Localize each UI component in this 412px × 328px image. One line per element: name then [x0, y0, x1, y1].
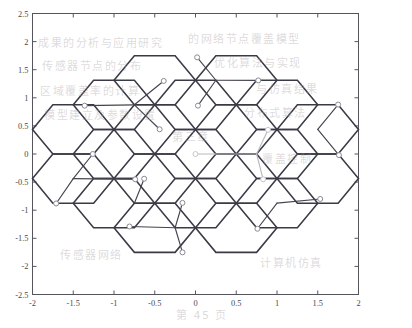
node-marker [195, 103, 200, 108]
node-marker [336, 102, 341, 107]
x-tick-label: -0.5 [148, 299, 161, 308]
star-arm [318, 129, 339, 155]
node-marker [54, 201, 59, 206]
node-marker [336, 153, 341, 158]
star-arm [56, 179, 73, 204]
node-marker [142, 176, 147, 181]
node-marker [90, 152, 95, 157]
node-marker [82, 103, 87, 108]
node-marker [318, 196, 323, 201]
y-tick-label: 1.5 [18, 66, 28, 75]
y-tick-label: 2 [24, 38, 28, 47]
node-marker [127, 224, 132, 229]
y-tick-label: -1 [22, 206, 29, 215]
node-marker [161, 78, 166, 83]
hexagonal-lattice-plot: -2-1.5-1-0.500.511.52 -2.5-2-1.5-1-0.500… [0, 0, 412, 328]
y-tick-label: 0.5 [18, 122, 28, 131]
star-arm [129, 227, 175, 228]
y-axis-tick-labels: -2.5-2-1.5-1-0.500.511.522.5 [15, 10, 28, 300]
node-marker [133, 177, 138, 182]
star-arm [318, 105, 338, 130]
node-marker [157, 127, 162, 132]
y-tick-label: -2 [22, 262, 29, 271]
x-tick-label: 1.5 [313, 299, 323, 308]
x-axis-tick-labels: -2-1.5-1-0.500.511.52 [29, 299, 361, 308]
y-tick-label: 1 [24, 94, 28, 103]
node-marker [255, 226, 260, 231]
x-tick-label: 0 [193, 299, 197, 308]
y-tick-label: -2.5 [15, 291, 28, 300]
star-arm [73, 179, 135, 180]
x-tick-label: -1.5 [67, 299, 80, 308]
figure-container: 成果的分析与应用研究的网络节点覆盖模型传感器节点的分布优化算法与实现区域覆盖率的… [0, 0, 412, 328]
y-tick-label: -1.5 [15, 234, 28, 243]
star-arm [197, 57, 216, 80]
x-tick-label: 2 [356, 299, 360, 308]
y-tick-label: 0 [24, 150, 28, 159]
node-marker [195, 55, 200, 60]
star-arm [134, 179, 144, 203]
x-tick-label: -2 [29, 299, 36, 308]
node-marker [256, 78, 261, 83]
x-tick-label: -1 [111, 299, 118, 308]
node-marker [193, 152, 198, 157]
node-marker [180, 200, 185, 205]
x-tick-label: 1 [275, 299, 279, 308]
y-tick-label: 2.5 [18, 10, 28, 19]
node-marker [261, 177, 266, 182]
x-tick-label: 0.5 [231, 299, 241, 308]
node-marker [266, 127, 271, 132]
node-marker [180, 250, 185, 255]
y-tick-label: -0.5 [15, 178, 28, 187]
